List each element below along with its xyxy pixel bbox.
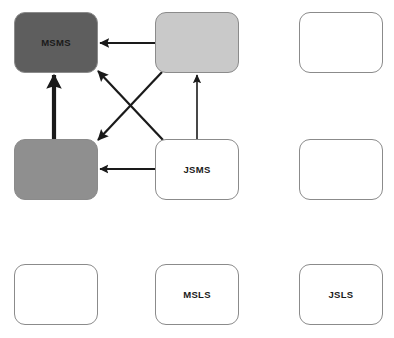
node-label: MSMS <box>41 38 71 48</box>
node-jsms[interactable]: JSMS <box>155 139 239 200</box>
diagram-canvas: MSMS JSMS MSLS JSLS <box>0 0 394 338</box>
node-msms[interactable]: MSMS <box>14 12 98 73</box>
edge-r2c2-to-r1c1 <box>98 71 163 140</box>
node-middle-right[interactable] <box>299 139 383 200</box>
node-bottom-left[interactable] <box>14 264 98 325</box>
node-label: JSLS <box>329 290 354 300</box>
node-middle-left[interactable] <box>14 139 98 200</box>
node-msls[interactable]: MSLS <box>155 264 239 325</box>
node-label: JSMS <box>183 165 210 175</box>
node-top-right[interactable] <box>299 12 383 73</box>
node-jsls[interactable]: JSLS <box>299 264 383 325</box>
node-top-middle[interactable] <box>155 12 239 73</box>
node-label: MSLS <box>183 290 211 300</box>
edge-r1c2-to-r2c1 <box>98 72 162 140</box>
